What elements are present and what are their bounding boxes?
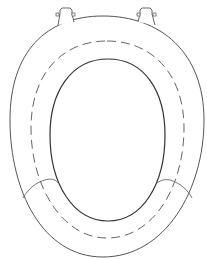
- dashed-guide: [31, 41, 184, 238]
- right-hinge: [137, 8, 156, 25]
- left-hinge: [56, 8, 75, 25]
- left-seam: [23, 179, 58, 198]
- toilet-seat-diagram: [0, 0, 207, 259]
- diagram-svg: [0, 0, 207, 259]
- inner-opening: [50, 59, 165, 221]
